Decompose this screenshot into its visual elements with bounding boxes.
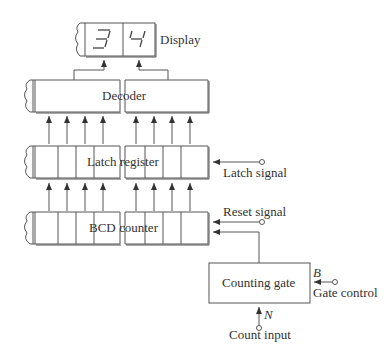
seven-segment-digits [93, 30, 145, 48]
decoder-label: Decoder [102, 88, 147, 103]
count-input-symbol: N [263, 307, 274, 322]
latch-signal-line [213, 160, 265, 165]
counter-to-latch-arrows [49, 183, 190, 211]
latch-to-decoder-arrows [49, 116, 190, 144]
gate-control-symbol: B [313, 265, 321, 280]
count-input-label: Count input [229, 327, 291, 342]
gate-control-label: Gate control [313, 285, 378, 300]
digit-3 [93, 30, 110, 48]
reset-signal-label: Reset signal [223, 204, 287, 219]
gate-to-counter-line [213, 232, 259, 263]
bcd-counter-label: BCD counter [89, 220, 159, 235]
counting-gate-label: Counting gate [222, 275, 296, 290]
latch-signal-label: Latch signal [223, 165, 287, 180]
gate-control-line [314, 280, 338, 285]
digit-4 [130, 31, 145, 47]
counter-block-diagram: Display Decoder Latch register Latch sig… [0, 0, 391, 359]
display-label: Display [160, 32, 201, 47]
display-block [76, 23, 157, 57]
latch-register-label: Latch register [87, 154, 159, 169]
reset-signal-line [213, 220, 265, 225]
decoder-to-display-lines [74, 60, 168, 80]
